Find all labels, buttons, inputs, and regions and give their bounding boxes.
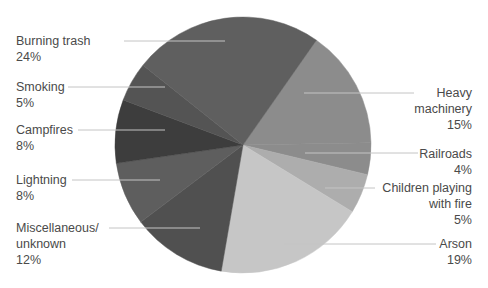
label-children-pct: 5% [382,212,472,228]
label-heavy-machinery: Heavy machinery 15% [414,85,472,133]
label-burning-trash-name: Burning trash [16,33,90,49]
label-railroads-pct: 4% [419,162,472,178]
label-misc: Miscellaneous/ unknown 12% [16,220,99,268]
label-railroads-name: Railroads [419,146,472,162]
label-smoking-pct: 5% [16,95,65,111]
label-lightning-name: Lightning [16,172,67,188]
label-campfires: Campfires 8% [16,122,73,154]
label-smoking-name: Smoking [16,79,65,95]
label-arson: Arson 19% [439,236,472,268]
label-campfires-name: Campfires [16,122,73,138]
label-arson-name: Arson [439,236,472,252]
label-misc-line2: unknown [16,236,99,252]
label-misc-pct: 12% [16,252,99,268]
label-lightning-pct: 8% [16,188,67,204]
label-children-line1: Children playing [382,180,472,196]
label-heavy-line2: machinery [414,101,472,117]
pie-slices [115,17,371,273]
label-arson-pct: 19% [439,252,472,268]
label-children-line2: with fire [382,196,472,212]
label-burning-trash: Burning trash 24% [16,33,90,65]
label-children: Children playing with fire 5% [382,180,472,228]
label-lightning: Lightning 8% [16,172,67,204]
label-campfires-pct: 8% [16,138,73,154]
label-heavy-pct: 15% [414,117,472,133]
label-smoking: Smoking 5% [16,79,65,111]
label-heavy-line1: Heavy [414,85,472,101]
label-misc-line1: Miscellaneous/ [16,220,99,236]
label-railroads: Railroads 4% [419,146,472,178]
label-burning-trash-pct: 24% [16,49,90,65]
